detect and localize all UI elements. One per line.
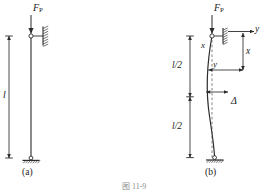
force-subscript-b: P bbox=[220, 6, 224, 13]
buckled-column-b bbox=[207, 36, 214, 158]
force-label-b: FP bbox=[214, 3, 224, 14]
axis-y-label-b: y bbox=[255, 25, 259, 35]
dimension-line-a bbox=[5, 36, 13, 158]
section-x-label-b: x bbox=[201, 41, 205, 50]
axis-x-label-b: x bbox=[246, 47, 250, 57]
dimension-line-b-lower bbox=[186, 97, 194, 158]
panel-b-drawing bbox=[186, 15, 254, 163]
figure-container: FP l (a) FP y x x y Δ l/2 l/2 (b) 图 11-9 bbox=[0, 0, 270, 190]
wall-hatching-b bbox=[223, 28, 228, 45]
force-subscript-a: P bbox=[39, 6, 43, 13]
panel-caption-a: (a) bbox=[22, 168, 33, 178]
deflection-y-label-b: y bbox=[213, 60, 217, 69]
figure-drawing bbox=[0, 0, 270, 190]
fixed-base-a bbox=[23, 156, 41, 163]
force-label-a: FP bbox=[33, 3, 43, 14]
wall-hatching-a bbox=[43, 26, 48, 46]
pin-joint-a bbox=[29, 34, 33, 38]
panel-caption-b: (b) bbox=[205, 168, 216, 178]
pin-joint-b bbox=[210, 34, 214, 38]
panel-a-drawing bbox=[5, 15, 48, 163]
length-label-a: l bbox=[3, 90, 6, 100]
half-length-label-lower-b: l/2 bbox=[172, 122, 182, 132]
max-deflection-label-b: Δ bbox=[231, 96, 237, 106]
half-length-label-upper-b: l/2 bbox=[172, 61, 182, 71]
fixed-base-b bbox=[206, 156, 224, 163]
figure-number-caption: 图 11-9 bbox=[122, 180, 146, 190]
dimension-line-b-upper bbox=[186, 36, 194, 97]
